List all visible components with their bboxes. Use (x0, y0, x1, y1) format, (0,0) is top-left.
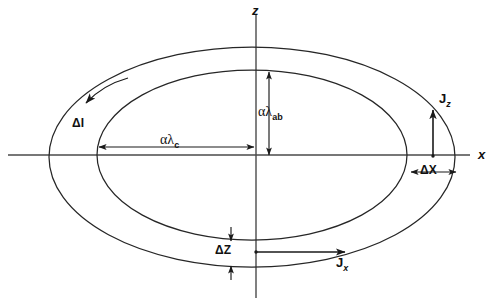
x-axis-label: x (478, 148, 485, 161)
diagram-svg (0, 0, 500, 307)
current-delta-i-label: ΔI (72, 117, 84, 129)
current-jx-origin-dot (254, 250, 257, 253)
diagram-canvas: x z αλc αλab ΔX ΔZ Jz Jx ΔI (0, 0, 500, 307)
outer-ellipse (49, 47, 455, 267)
axis-group (8, 14, 470, 298)
alpha-lambda-ab-label-main: αλ (258, 104, 272, 119)
current-jx-label-sub: x (343, 263, 348, 273)
ellipse-group (49, 47, 455, 267)
alpha-lambda-ab-label-sub: ab (272, 112, 283, 122)
current-jz-origin-dot (431, 154, 434, 157)
alpha-lambda-c-label-sub: c (174, 140, 179, 150)
alpha-lambda-c-label: αλc (160, 133, 179, 150)
current-jz-label: Jz (439, 92, 451, 109)
delta-z-label: ΔZ (215, 244, 231, 256)
current-jx-label: Jx (336, 256, 348, 273)
current-jz-label-sub: z (446, 99, 451, 109)
z-axis-label: z (252, 4, 259, 17)
delta-x-label: ΔX (420, 164, 437, 176)
alpha-lambda-c-label-main: αλ (160, 132, 174, 147)
alpha-lambda-ab-label: αλab (258, 105, 283, 122)
current-delta-i-arc (86, 78, 128, 103)
